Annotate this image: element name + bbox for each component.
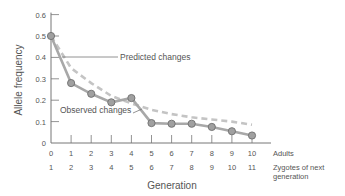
x-tick-zygotes: 4 bbox=[109, 163, 113, 172]
x-tick-adults: 10 bbox=[248, 149, 256, 158]
x-tick-zygotes: 11 bbox=[248, 163, 256, 172]
data-point bbox=[47, 32, 54, 39]
x-tick-zygotes: 9 bbox=[210, 163, 214, 172]
observed-label: Observed changes bbox=[60, 105, 131, 115]
data-point bbox=[128, 94, 135, 101]
data-point bbox=[248, 132, 255, 139]
allele-frequency-chart: 00.10.20.30.40.50.6011223344556677889910… bbox=[0, 0, 345, 196]
x-tick-adults: 7 bbox=[190, 149, 194, 158]
x-tick-zygotes: 3 bbox=[89, 163, 93, 172]
x-tick-adults: 1 bbox=[69, 149, 73, 158]
x-tick-zygotes: 1 bbox=[49, 163, 53, 172]
y-axis-label: Allele frequency bbox=[13, 44, 24, 115]
y-tick-label: 0.4 bbox=[36, 53, 46, 62]
x-tick-adults: 0 bbox=[49, 149, 53, 158]
x-tick-zygotes: 10 bbox=[228, 163, 236, 172]
predicted-label: Predicted changes bbox=[120, 52, 190, 62]
data-point bbox=[168, 120, 175, 127]
data-point bbox=[68, 79, 75, 86]
y-tick-label: 0.5 bbox=[36, 32, 46, 41]
row-label-zygotes: Zygotes of next bbox=[273, 163, 325, 172]
y-tick-label: 0.1 bbox=[36, 118, 46, 127]
data-point bbox=[188, 120, 195, 127]
y-tick-label: 0 bbox=[42, 139, 46, 148]
row-label-zygotes-2: generation bbox=[273, 172, 308, 181]
observed-series bbox=[47, 32, 255, 139]
x-axis-label: Generation bbox=[147, 180, 196, 191]
x-tick-zygotes: 5 bbox=[129, 163, 133, 172]
annotations: Predicted changes Observed changes bbox=[60, 52, 190, 115]
row-label-adults: Adults bbox=[273, 149, 294, 158]
x-tick-zygotes: 2 bbox=[69, 163, 73, 172]
x-tick-adults: 8 bbox=[210, 149, 214, 158]
y-tick-label: 0.3 bbox=[36, 75, 46, 84]
x-tick-adults: 6 bbox=[170, 149, 174, 158]
data-point bbox=[148, 119, 155, 126]
x-tick-adults: 3 bbox=[109, 149, 113, 158]
y-tick-label: 0.6 bbox=[36, 11, 46, 20]
data-point bbox=[228, 128, 235, 135]
x-tick-zygotes: 8 bbox=[190, 163, 194, 172]
axes: 00.10.20.30.40.50.6011223344556677889910… bbox=[36, 11, 271, 172]
x-tick-zygotes: 6 bbox=[149, 163, 153, 172]
data-point bbox=[208, 123, 215, 130]
x-tick-zygotes: 7 bbox=[170, 163, 174, 172]
x-tick-adults: 2 bbox=[89, 149, 93, 158]
x-tick-adults: 5 bbox=[149, 149, 153, 158]
data-point bbox=[88, 90, 95, 97]
x-tick-adults: 4 bbox=[129, 149, 133, 158]
y-tick-label: 0.2 bbox=[36, 96, 46, 105]
x-tick-adults: 9 bbox=[230, 149, 234, 158]
